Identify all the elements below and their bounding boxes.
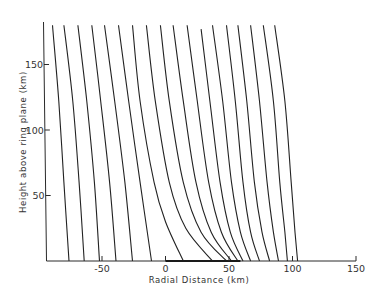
field-line-12	[201, 29, 243, 261]
field-line-5	[105, 25, 133, 261]
field-line-9	[160, 25, 226, 261]
field-line-15	[238, 25, 270, 261]
field-line-1	[53, 25, 70, 261]
field-line-4	[92, 25, 116, 261]
field-line-16	[251, 25, 279, 261]
y-axis	[44, 22, 47, 261]
x-tick-label: 150	[347, 263, 365, 274]
x-tick-label: 100	[283, 263, 301, 274]
y-tick-label: 50	[33, 190, 45, 201]
field-line-13	[213, 25, 251, 261]
x-tick-label: 0	[162, 263, 168, 274]
y-tick-label: 150	[25, 59, 43, 70]
field-line-chart: -50050100150 50100150 Radial Distance (k…	[0, 0, 388, 294]
x-tick-label: -50	[94, 263, 110, 274]
y-tick-label: 100	[26, 125, 44, 136]
x-axis-label: Radial Distance (km)	[149, 275, 250, 285]
y-axis-label: Height above ring plane (km)	[18, 71, 28, 213]
x-tick-label: 50	[223, 263, 235, 274]
y-axis-ticks: 50100150	[25, 59, 51, 201]
field-line-17	[263, 25, 287, 261]
field-line-18	[275, 25, 298, 261]
field-lines	[53, 25, 298, 261]
